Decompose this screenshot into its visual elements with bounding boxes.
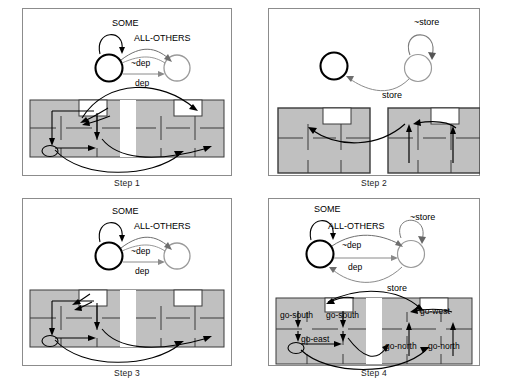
state-node-light: [405, 55, 432, 82]
map-grid-2-right: [388, 108, 480, 173]
label-some: SOME: [314, 204, 341, 214]
figure-four-step-diagram: SOME ALL-OTHERS ~dep dep: [0, 0, 509, 385]
panel-step-1: SOME ALL-OTHERS ~dep dep: [22, 8, 232, 193]
state-node-bold: [307, 241, 334, 268]
label-dep: dep: [135, 78, 149, 88]
panel-2-content: ~store store: [268, 8, 480, 193]
panel-2-caption: Step 2: [268, 178, 480, 188]
label-not-store: ~store: [414, 17, 439, 27]
state-node-bold: [321, 53, 348, 80]
label-dep: dep: [135, 266, 149, 276]
panel-step-4: SOME ALL-OTHERS ~store ~dep dep store: [268, 198, 480, 383]
label-all-others: ALL-OTHERS: [328, 221, 385, 231]
label-store: store: [387, 283, 407, 293]
state-node-light: [398, 241, 425, 268]
panel-4-content: SOME ALL-OTHERS ~store ~dep dep store: [268, 198, 480, 383]
label-not-dep: ~dep: [131, 58, 150, 68]
panel-3-caption: Step 3: [22, 368, 232, 378]
state-node-bold: [96, 243, 123, 270]
panel-step-2: ~store store: [268, 8, 480, 193]
panel-step-3: SOME ALL-OTHERS ~dep dep: [22, 198, 232, 383]
panel-1-caption: Step 1: [22, 178, 232, 188]
label-all-others: ALL-OTHERS: [134, 221, 191, 231]
label-some: SOME: [112, 206, 139, 216]
label-all-others: ALL-OTHERS: [134, 33, 191, 43]
panel-1-content: SOME ALL-OTHERS ~dep dep: [22, 8, 232, 193]
label-dep: dep: [348, 262, 362, 272]
map-grid-2-left: [278, 108, 370, 173]
panel-4-caption: Step 4: [268, 368, 480, 378]
panel-3-content: SOME ALL-OTHERS ~dep dep: [22, 198, 232, 383]
label-not-dep: ~dep: [131, 246, 150, 256]
label-not-store: ~store: [410, 212, 435, 222]
state-node-bold: [96, 55, 123, 82]
label-not-dep: ~dep: [342, 240, 361, 250]
automaton-2: [321, 35, 437, 91]
label-some: SOME: [112, 18, 139, 28]
label-store: store: [382, 90, 402, 100]
